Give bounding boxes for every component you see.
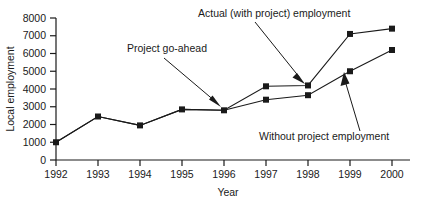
x-tick-1997: 1997: [254, 168, 278, 180]
data-point-marker: [347, 68, 353, 74]
y-tick-4000: 4000: [23, 83, 47, 95]
data-point-marker: [305, 82, 311, 88]
annotation-without-project-label: Without project employment: [259, 130, 389, 142]
x-axis-title: Year: [217, 186, 239, 198]
data-point-marker: [347, 31, 353, 37]
data-point-marker: [263, 83, 269, 89]
y-tick-5000: 5000: [23, 65, 47, 77]
y-tick-6000: 6000: [23, 47, 47, 59]
y-tick-8000: 8000: [23, 12, 47, 24]
arrowhead-icon: [293, 73, 306, 84]
x-axis: [56, 160, 410, 166]
x-tick-labels: 1992 1993 1994 1995 1996 1997 1998 1999 …: [44, 168, 404, 180]
y-axis: [50, 18, 56, 160]
data-point-marker: [389, 47, 395, 53]
data-point-marker: [389, 26, 395, 32]
data-point-marker: [263, 97, 269, 103]
y-tick-0: 0: [40, 154, 46, 166]
annotation-project-go-ahead-label: Project go-ahead: [127, 42, 207, 54]
x-tick-2000: 2000: [380, 168, 404, 180]
annotation-actual-with-project: Actual (with project) employment: [198, 7, 350, 84]
annotation-without-project: Without project employment: [259, 72, 389, 142]
y-tick-3000: 3000: [23, 100, 47, 112]
y-axis-title: Local employment: [4, 46, 16, 131]
x-tick-1998: 1998: [296, 168, 320, 180]
employment-line-chart: 8000 7000 6000 5000 4000 3000 2000 1000 …: [0, 0, 425, 202]
x-tick-1994: 1994: [128, 168, 152, 180]
y-tick-labels: 8000 7000 6000 5000 4000 3000 2000 1000 …: [23, 12, 47, 166]
x-tick-1993: 1993: [86, 168, 110, 180]
annotation-project-go-ahead: Project go-ahead: [127, 42, 221, 107]
y-tick-7000: 7000: [23, 29, 47, 41]
x-tick-1992: 1992: [44, 168, 68, 180]
chart-figure: 8000 7000 6000 5000 4000 3000 2000 1000 …: [0, 0, 425, 202]
x-tick-1999: 1999: [338, 168, 362, 180]
y-tick-1000: 1000: [23, 136, 47, 148]
y-tick-2000: 2000: [23, 118, 47, 130]
x-tick-1995: 1995: [170, 168, 194, 180]
data-point-marker: [305, 92, 311, 98]
annotation-actual-with-project-label: Actual (with project) employment: [198, 7, 350, 19]
x-tick-1996: 1996: [212, 168, 236, 180]
